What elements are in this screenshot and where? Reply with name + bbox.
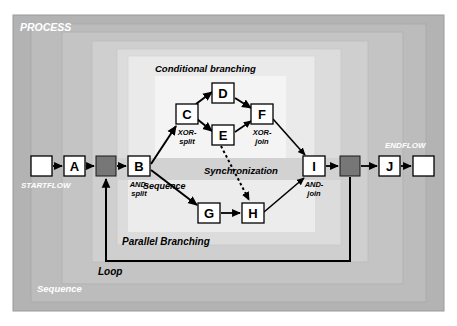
region-label-sequence-inner: Sequence bbox=[143, 181, 186, 191]
region-label-parallel-branching: Parallel Branching bbox=[122, 236, 210, 247]
node-label-F: F bbox=[258, 107, 266, 122]
node-start[interactable] bbox=[31, 156, 52, 176]
node-label-C: C bbox=[182, 107, 192, 122]
workflow-diagram-canvas: A B C D E F G H I J AND- split XOR- spli… bbox=[0, 0, 457, 326]
node-label-D: D bbox=[218, 86, 227, 101]
annotation-i-and-join-line1: AND- bbox=[304, 180, 324, 189]
zone-label-startflow: STARTFLOW bbox=[21, 181, 72, 190]
annotation-f-xor-join-line2: join bbox=[254, 137, 269, 146]
node-label-B: B bbox=[134, 159, 143, 174]
node-end[interactable] bbox=[413, 156, 434, 176]
annotation-i-and-join-line2: join bbox=[306, 189, 321, 198]
diagram-svg: A B C D E F G H I J AND- split XOR- spli… bbox=[0, 0, 457, 326]
node-label-G: G bbox=[204, 206, 214, 221]
annotation-c-xor-split-line2: split bbox=[179, 137, 195, 146]
node-label-I: I bbox=[312, 159, 316, 174]
region-label-loop: Loop bbox=[98, 266, 122, 277]
zone-label-sequence-outer: Sequence bbox=[37, 283, 83, 294]
gateway-split-right[interactable] bbox=[340, 156, 360, 176]
node-label-J: J bbox=[386, 159, 393, 174]
gateway-merge-left[interactable] bbox=[96, 156, 116, 176]
node-label-A: A bbox=[70, 159, 80, 174]
node-label-H: H bbox=[248, 206, 257, 221]
region-label-conditional-branching: Conditional branching bbox=[155, 63, 256, 74]
annotation-f-xor-join-line1: XOR- bbox=[252, 128, 272, 137]
region-label-synchronization: Synchronization bbox=[204, 165, 278, 176]
zone-label-endflow: ENDFLOW bbox=[385, 141, 427, 150]
zone-label-process: PROCESS bbox=[20, 21, 71, 33]
annotation-c-xor-split-line1: XOR- bbox=[177, 128, 197, 137]
node-label-E: E bbox=[219, 128, 228, 143]
